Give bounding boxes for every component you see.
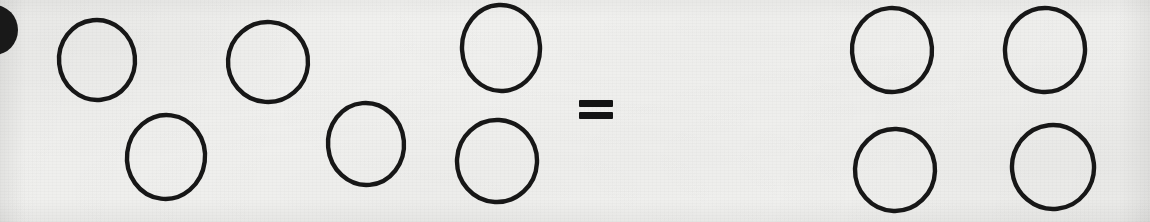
- left-circle-3: [460, 3, 542, 93]
- equals-sign-top-bar: [579, 100, 613, 107]
- ink-drawing-layer: [0, 0, 1150, 222]
- right-circle-1: [849, 5, 935, 94]
- left-circle-group: [55, 3, 542, 204]
- left-circle-1: [55, 16, 139, 104]
- clipped-filled-dot-group: [0, 5, 18, 55]
- left-circle-4: [122, 111, 210, 204]
- right-circle-2: [1001, 5, 1088, 96]
- clipped-filled-dot: [0, 5, 18, 55]
- right-circle-3: [854, 128, 937, 213]
- left-circle-5: [325, 100, 408, 188]
- left-circle-6: [455, 118, 539, 204]
- left-circle-2: [225, 19, 310, 104]
- equals-sign-bottom-bar: [579, 112, 613, 119]
- drawing-canvas: [0, 0, 1150, 222]
- right-circle-4: [1008, 121, 1098, 213]
- equals-sign: [579, 100, 613, 119]
- right-circle-group: [849, 5, 1098, 213]
- scanned-page: 6 = 4: [0, 0, 1150, 222]
